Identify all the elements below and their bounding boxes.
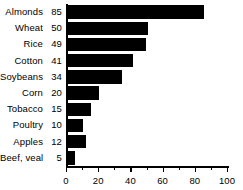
x-tick-major	[98, 167, 99, 172]
x-tick-label: 100	[219, 175, 235, 186]
category-value-label: 41	[47, 56, 62, 66]
category-value-label: 49	[47, 39, 62, 49]
category-row: Rice49	[0, 36, 62, 52]
bar-chart: Almonds85Wheat50Rice49Cotton41Soybeans34…	[0, 0, 243, 190]
category-label: Beef, veal	[0, 153, 43, 163]
category-value-label: 20	[47, 88, 62, 98]
bar	[67, 119, 83, 133]
x-tick-minor	[179, 167, 180, 170]
x-tick-label: 60	[157, 175, 168, 186]
category-label: Almonds	[5, 7, 43, 17]
category-label: Poultry	[13, 120, 43, 130]
category-label-column: Almonds85Wheat50Rice49Cotton41Soybeans34…	[0, 0, 62, 166]
x-tick-major	[66, 167, 67, 172]
category-value-label: 5	[47, 153, 62, 163]
bar	[67, 103, 91, 117]
bar	[67, 38, 146, 52]
bar	[67, 54, 133, 68]
bar	[67, 86, 99, 100]
category-label: Apples	[13, 137, 43, 147]
category-label: Wheat	[15, 23, 43, 33]
category-row: Cotton41	[0, 53, 62, 69]
x-tick-label: 20	[93, 175, 104, 186]
category-row: Wheat50	[0, 20, 62, 36]
category-value-label: 15	[47, 104, 62, 114]
category-row: Poultry10	[0, 117, 62, 133]
category-label: Rice	[24, 39, 43, 49]
x-tick-minor	[211, 167, 212, 170]
x-tick-label: 40	[125, 175, 136, 186]
bar	[67, 151, 75, 165]
x-tick-major	[130, 167, 131, 172]
x-tick-major	[163, 167, 164, 172]
x-tick-minor	[82, 167, 83, 170]
category-row: Beef, veal5	[0, 150, 62, 166]
bar	[67, 22, 148, 36]
category-row: Corn20	[0, 85, 62, 101]
plot-area	[66, 0, 229, 166]
category-row: Almonds85	[0, 4, 62, 20]
category-value-label: 34	[47, 72, 62, 82]
category-label: Tobacco	[7, 104, 43, 114]
x-tick-label: 80	[189, 175, 200, 186]
category-row: Apples12	[0, 134, 62, 150]
bar	[67, 70, 122, 84]
bar	[67, 135, 86, 149]
category-value-label: 85	[47, 7, 62, 17]
bar	[67, 5, 204, 19]
category-row: Tobacco15	[0, 101, 62, 117]
category-label: Corn	[22, 88, 43, 98]
x-tick-minor	[147, 167, 148, 170]
category-value-label: 50	[47, 23, 62, 33]
x-axis-line	[66, 166, 229, 168]
category-value-label: 10	[47, 120, 62, 130]
x-tick-minor	[114, 167, 115, 170]
x-tick-major	[195, 167, 196, 172]
category-label: Soybeans	[0, 72, 43, 82]
x-tick-label: 0	[63, 175, 68, 186]
x-tick-major	[227, 167, 228, 172]
category-label: Cotton	[14, 56, 43, 66]
category-value-label: 12	[47, 137, 62, 147]
category-row: Soybeans34	[0, 69, 62, 85]
